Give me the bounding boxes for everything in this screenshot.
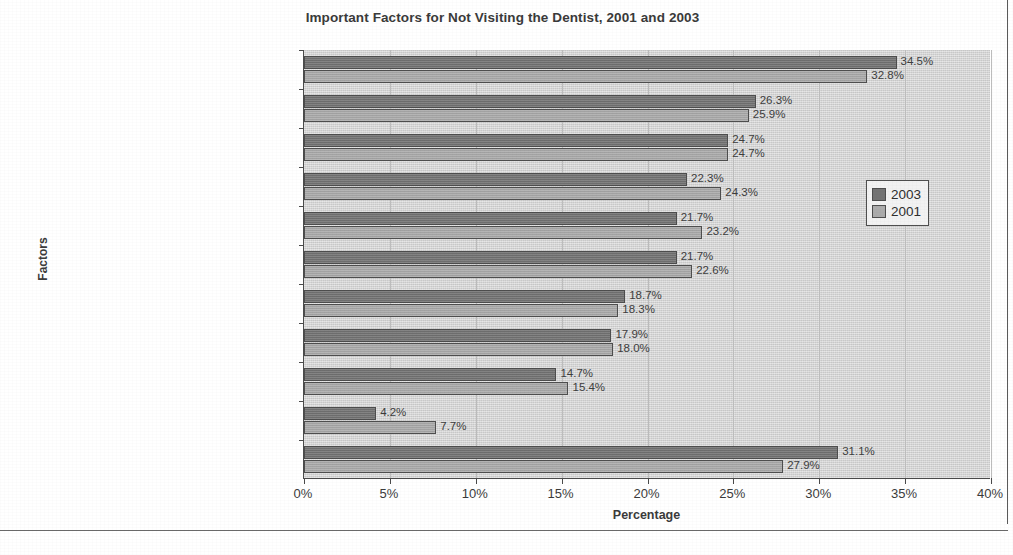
- x-axis-tick-label: 25%: [702, 486, 762, 501]
- bar-2001-10[interactable]: [304, 421, 436, 434]
- bar-texture: [305, 266, 691, 277]
- bar-texture: [305, 149, 727, 160]
- bar-texture: [305, 461, 782, 472]
- x-axis-tick-label: 10%: [445, 486, 505, 501]
- data-label-2001-1: 32.8%: [871, 69, 904, 81]
- data-label-2001-2: 25.9%: [753, 108, 786, 120]
- bar-2001-4[interactable]: [304, 187, 721, 200]
- y-axis-tick: [299, 323, 304, 324]
- plot-area: 34.5%32.8%26.3%25.9%24.7%24.7%22.3%24.3%…: [303, 50, 990, 479]
- data-label-2003-5: 21.7%: [681, 211, 714, 223]
- x-axis-tick-label: 40%: [960, 486, 1013, 501]
- data-label-2003-4: 22.3%: [691, 172, 724, 184]
- bar-2003-8[interactable]: [304, 329, 611, 342]
- bar-2003-7[interactable]: [304, 290, 625, 303]
- x-axis-tick: [991, 478, 992, 484]
- chart-title: Important Factors for Not Visiting the D…: [0, 10, 1005, 25]
- bar-2003-4[interactable]: [304, 173, 687, 186]
- x-axis-title: Percentage: [303, 508, 990, 522]
- data-label-2001-10: 7.7%: [440, 420, 466, 432]
- x-axis-tick: [390, 478, 391, 484]
- x-axis-tick: [648, 478, 649, 484]
- data-label-2001-8: 18.0%: [617, 342, 650, 354]
- bar-texture: [305, 96, 755, 107]
- data-label-2003-9: 14.7%: [560, 367, 593, 379]
- data-label-2001-7: 18.3%: [622, 303, 655, 315]
- page-border-right: [1007, 0, 1008, 524]
- legend-entry-2003: 2003: [872, 187, 921, 202]
- x-axis-tick: [733, 478, 734, 484]
- gridline: [991, 50, 992, 479]
- x-axis-tick-label: 30%: [788, 486, 848, 501]
- bar-2003-5[interactable]: [304, 212, 677, 225]
- y-axis-tick: [299, 245, 304, 246]
- data-label-2003-8: 17.9%: [615, 328, 648, 340]
- bar-texture: [305, 369, 555, 380]
- y-axis-tick: [299, 401, 304, 402]
- page-border-bottom: [0, 530, 1008, 531]
- bar-2001-2[interactable]: [304, 109, 749, 122]
- legend-label-2001: 2001: [891, 204, 921, 219]
- bar-2001-3[interactable]: [304, 148, 728, 161]
- bar-texture: [305, 135, 727, 146]
- data-label-2003-1: 34.5%: [901, 55, 934, 67]
- y-axis-tick: [299, 89, 304, 90]
- bar-texture: [305, 188, 720, 199]
- bar-2001-1[interactable]: [304, 70, 867, 83]
- x-axis-tick-label: 0%: [273, 486, 333, 501]
- bar-2001-5[interactable]: [304, 226, 702, 239]
- y-axis-tick: [299, 284, 304, 285]
- data-label-2003-11: 31.1%: [842, 445, 875, 457]
- bar-texture: [305, 305, 617, 316]
- y-axis-tick: [299, 206, 304, 207]
- y-axis-tick: [299, 50, 304, 51]
- y-axis-tick: [299, 440, 304, 441]
- bar-2003-6[interactable]: [304, 251, 677, 264]
- bar-2003-2[interactable]: [304, 95, 756, 108]
- bar-texture: [305, 174, 686, 185]
- bar-2001-11[interactable]: [304, 460, 783, 473]
- data-label-2003-2: 26.3%: [760, 94, 793, 106]
- bar-2003-11[interactable]: [304, 446, 838, 459]
- bar-texture: [305, 213, 676, 224]
- x-axis-tick-label: 20%: [617, 486, 677, 501]
- bar-texture: [305, 252, 676, 263]
- data-label-2001-6: 22.6%: [696, 264, 729, 276]
- gridline: [819, 50, 820, 479]
- bar-2001-6[interactable]: [304, 265, 692, 278]
- bar-texture: [305, 291, 624, 302]
- bar-texture: [305, 344, 612, 355]
- chart-legend: 2003 2001: [866, 180, 929, 226]
- x-axis-tick: [819, 478, 820, 484]
- bar-texture: [305, 227, 701, 238]
- legend-entry-2001: 2001: [872, 204, 921, 219]
- data-label-2001-3: 24.7%: [732, 147, 765, 159]
- data-label-2001-9: 15.4%: [572, 381, 605, 393]
- bar-2001-9[interactable]: [304, 382, 568, 395]
- bar-2001-7[interactable]: [304, 304, 618, 317]
- bar-texture: [305, 447, 837, 458]
- x-axis-tick: [304, 478, 305, 484]
- bar-2001-8[interactable]: [304, 343, 613, 356]
- legend-swatch-2001: [872, 205, 886, 218]
- y-axis-tick: [299, 128, 304, 129]
- y-axis-tick: [299, 167, 304, 168]
- x-axis-tick-label: 5%: [359, 486, 419, 501]
- bar-2003-1[interactable]: [304, 56, 897, 69]
- x-axis-tick: [905, 478, 906, 484]
- data-label-2003-7: 18.7%: [629, 289, 662, 301]
- bar-texture: [305, 110, 748, 121]
- bar-2003-10[interactable]: [304, 407, 376, 420]
- bar-texture: [305, 383, 567, 394]
- data-label-2001-4: 24.3%: [725, 186, 758, 198]
- data-label-2003-10: 4.2%: [380, 406, 406, 418]
- legend-swatch-2003: [872, 188, 886, 201]
- bar-texture: [305, 422, 435, 433]
- bar-2003-9[interactable]: [304, 368, 556, 381]
- data-label-2003-3: 24.7%: [732, 133, 765, 145]
- bar-2003-3[interactable]: [304, 134, 728, 147]
- x-axis-tick: [562, 478, 563, 484]
- y-axis-title: Factors: [36, 214, 50, 304]
- x-axis-tick-label: 15%: [531, 486, 591, 501]
- x-axis-tick: [476, 478, 477, 484]
